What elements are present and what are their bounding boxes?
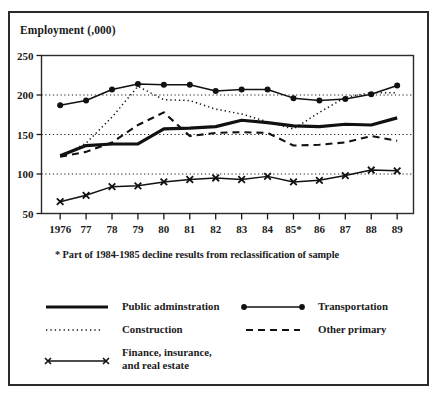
x-axis-tick-label: 1976 xyxy=(49,223,72,235)
series-marker xyxy=(316,98,322,104)
series-marker xyxy=(394,83,400,89)
legend-item-construction: Construction xyxy=(44,323,183,337)
y-axis-tick-label: 200 xyxy=(17,89,34,101)
series-marker xyxy=(368,91,374,97)
x-axis-tick-label: 86 xyxy=(314,223,326,235)
legend-label-finance-line1: Finance, insurance, xyxy=(122,346,212,358)
series-marker xyxy=(187,82,193,88)
series-marker xyxy=(109,86,115,92)
legend-label-finance: Finance, insurance,and real estate xyxy=(122,346,212,373)
x-axis-tick-label: 83 xyxy=(236,223,248,235)
x-axis-tick-label: 85* xyxy=(285,223,302,235)
legend-swatch-solid-thick xyxy=(44,300,110,314)
x-axis-tick-label: 87 xyxy=(340,223,352,235)
footnote-text: * Part of 1984-1985 decline results from… xyxy=(55,249,339,260)
y-axis-tick-label: 150 xyxy=(17,129,34,141)
x-axis-tick-label: 79 xyxy=(132,223,144,235)
series-marker xyxy=(265,86,271,92)
series-line xyxy=(60,86,397,156)
x-axis-tick-label: 77 xyxy=(81,223,93,235)
y-axis-tick-label: 250 xyxy=(17,50,34,62)
series-marker xyxy=(135,81,141,87)
x-axis-tick-label: 78 xyxy=(107,223,119,235)
x-axis-tick-label: 89 xyxy=(392,223,404,235)
chart-legend: Public adminstration Transportation Cons… xyxy=(44,296,424,371)
figure-container: Employment (,000) 5010015020025019767778… xyxy=(0,0,440,399)
legend-swatch-dotted xyxy=(44,323,110,337)
x-axis-tick-label: 81 xyxy=(184,223,195,235)
legend-item-public-administration: Public adminstration xyxy=(44,300,219,314)
legend-item-finance: Finance, insurance,and real estate xyxy=(44,346,212,373)
x-axis-tick-label: 84 xyxy=(262,223,274,235)
series-marker xyxy=(57,102,63,108)
series-line xyxy=(60,118,397,156)
legend-label-finance-line2: and real estate xyxy=(122,359,189,371)
legend-item-other-primary: Other primary xyxy=(240,323,386,337)
legend-label-public-administration: Public adminstration xyxy=(122,300,219,313)
legend-swatch-circle-line xyxy=(240,300,306,314)
series-marker xyxy=(83,98,89,104)
legend-swatch-dashed xyxy=(240,323,306,337)
legend-item-transportation: Transportation xyxy=(240,300,388,314)
legend-label-transportation: Transportation xyxy=(318,300,388,313)
x-axis-tick-label: 80 xyxy=(158,223,170,235)
series-marker xyxy=(213,88,219,94)
series-marker xyxy=(239,86,245,92)
series-marker xyxy=(290,95,296,101)
y-axis-tick-label: 100 xyxy=(17,168,34,180)
legend-label-other-primary: Other primary xyxy=(318,323,386,336)
legend-swatch-x-line xyxy=(44,352,110,366)
x-axis-tick-label: 82 xyxy=(210,223,222,235)
legend-label-construction: Construction xyxy=(122,323,183,336)
y-axis-tick-label: 50 xyxy=(23,208,35,220)
x-axis-tick-label: 88 xyxy=(366,223,378,235)
series-marker xyxy=(161,82,167,88)
